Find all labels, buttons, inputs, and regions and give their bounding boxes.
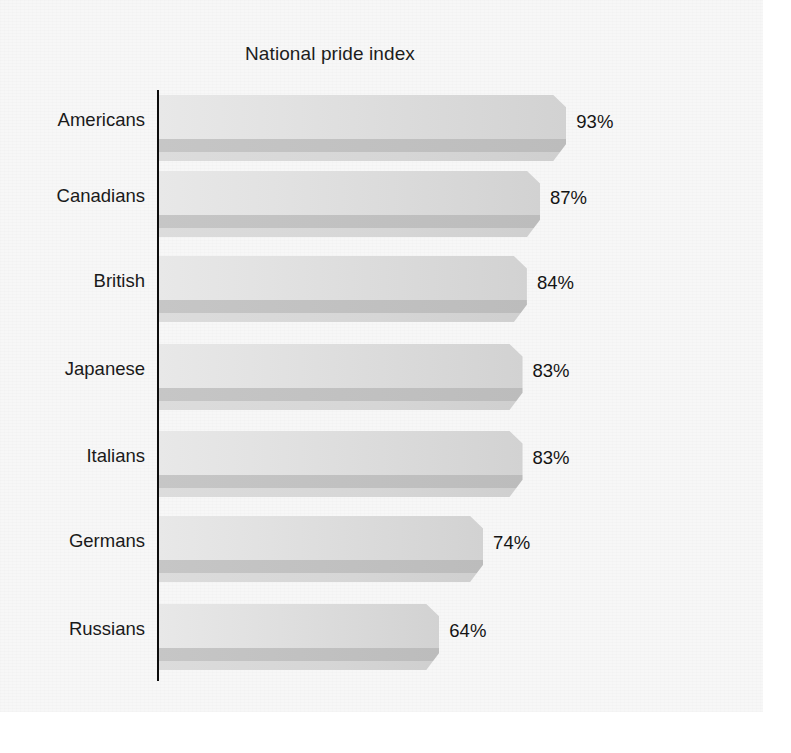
bar-shape bbox=[159, 171, 540, 237]
category-label-italians: Italians bbox=[0, 445, 145, 467]
bar-row: British 84% bbox=[0, 252, 791, 324]
category-label-americans: Americans bbox=[0, 109, 145, 131]
bar-shape bbox=[159, 256, 527, 322]
value-label-british: 84% bbox=[537, 272, 574, 294]
bar-chart: National pride index Americans 93% Canad… bbox=[0, 0, 791, 753]
bar-shadow-band bbox=[159, 215, 540, 228]
bar-bottom-lip bbox=[159, 401, 523, 410]
bar-row: Russians 64% bbox=[0, 600, 791, 672]
bar-face bbox=[159, 256, 527, 300]
bar-japanese[interactable] bbox=[159, 344, 523, 410]
value-label-germans: 74% bbox=[493, 532, 530, 554]
category-label-british: British bbox=[0, 270, 145, 292]
category-label-canadians: Canadians bbox=[0, 185, 145, 207]
plot-area: Americans 93% Canadians 87% bbox=[0, 0, 791, 753]
bar-row: Italians 83% bbox=[0, 427, 791, 499]
bar-shadow-band bbox=[159, 560, 483, 573]
bar-face bbox=[159, 431, 523, 475]
bar-face bbox=[159, 604, 439, 648]
value-label-japanese: 83% bbox=[533, 360, 570, 382]
bar-shape bbox=[159, 604, 439, 670]
value-label-americans: 93% bbox=[576, 111, 613, 133]
category-label-germans: Germans bbox=[0, 530, 145, 552]
bar-british[interactable] bbox=[159, 256, 527, 322]
bar-row: Japanese 83% bbox=[0, 340, 791, 412]
bar-face bbox=[159, 344, 523, 388]
bar-face bbox=[159, 95, 566, 139]
bar-row: Canadians 87% bbox=[0, 167, 791, 239]
bar-row: Germans 74% bbox=[0, 512, 791, 584]
bar-shadow-band bbox=[159, 648, 439, 661]
bar-bottom-lip bbox=[159, 661, 439, 670]
bar-canadians[interactable] bbox=[159, 171, 540, 237]
bar-russians[interactable] bbox=[159, 604, 439, 670]
bar-shape bbox=[159, 344, 523, 410]
category-label-russians: Russians bbox=[0, 618, 145, 640]
bar-shadow-band bbox=[159, 475, 523, 488]
bar-shape bbox=[159, 431, 523, 497]
bar-bottom-lip bbox=[159, 152, 566, 161]
bar-shape bbox=[159, 516, 483, 582]
bar-bottom-lip bbox=[159, 573, 483, 582]
bar-germans[interactable] bbox=[159, 516, 483, 582]
value-label-canadians: 87% bbox=[550, 187, 587, 209]
bar-bottom-lip bbox=[159, 228, 540, 237]
bar-americans[interactable] bbox=[159, 95, 566, 161]
category-label-japanese: Japanese bbox=[0, 358, 145, 380]
bar-shadow-band bbox=[159, 388, 523, 401]
bar-face bbox=[159, 516, 483, 560]
bar-bottom-lip bbox=[159, 313, 527, 322]
value-label-russians: 64% bbox=[449, 620, 486, 642]
bar-shadow-band bbox=[159, 139, 566, 152]
bar-shadow-band bbox=[159, 300, 527, 313]
bar-row: Americans 93% bbox=[0, 91, 791, 163]
bar-bottom-lip bbox=[159, 488, 523, 497]
bar-shape bbox=[159, 95, 566, 161]
value-label-italians: 83% bbox=[533, 447, 570, 469]
bar-italians[interactable] bbox=[159, 431, 523, 497]
bar-face bbox=[159, 171, 540, 215]
